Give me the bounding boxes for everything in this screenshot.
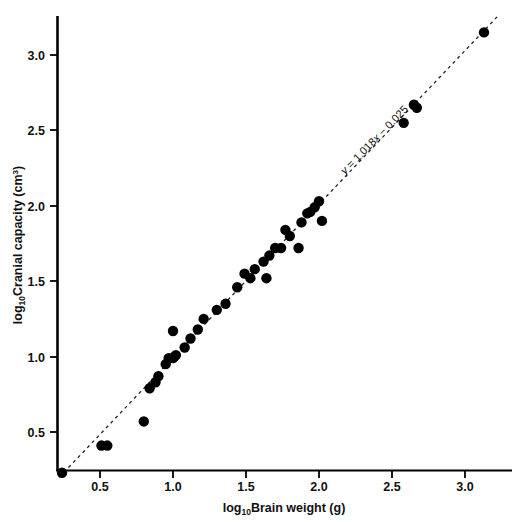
data-point — [296, 217, 306, 227]
x-axis-title-base: log — [223, 501, 242, 515]
data-point — [139, 416, 149, 426]
x-tick-label-1: 1.0 — [164, 480, 181, 494]
y-axis-title-sub: 10 — [17, 296, 27, 306]
axes-group — [56, 16, 512, 471]
svg-text:log10Brain weight (g): log10Brain weight (g) — [223, 501, 346, 517]
data-point — [314, 196, 324, 206]
data-point — [245, 273, 255, 283]
data-point — [412, 103, 422, 113]
data-point — [185, 333, 195, 343]
x-tick-label-2: 1.5 — [237, 480, 254, 494]
x-axis-title: log10Brain weight (g) — [223, 501, 346, 517]
data-point — [317, 216, 327, 226]
x-tick-label-3: 2.0 — [310, 480, 327, 494]
equation-equals: = 1.018 — [342, 135, 379, 172]
y-axis-title-tail: ) — [11, 166, 25, 170]
y-tick-label-5: 3.0 — [28, 49, 45, 63]
regression-equation: y = 1.018x − 0.025 — [337, 103, 410, 177]
data-point — [280, 225, 290, 235]
data-point — [250, 264, 260, 274]
y-tick-labels: 0.5 1.0 1.5 2.0 2.5 3.0 — [28, 49, 45, 440]
y-axis-title: log10Cranial capacity (cm3) — [11, 166, 27, 324]
data-point — [193, 324, 203, 334]
y-axis-title-base: log — [11, 305, 25, 324]
x-tick-label-4: 2.5 — [383, 480, 400, 494]
x-axis-title-sub: 10 — [241, 507, 251, 517]
y-tick-label-4: 2.5 — [28, 124, 45, 138]
y-tick-label-1: 1.0 — [28, 351, 45, 365]
data-point — [179, 342, 189, 352]
x-tick-label-0: 0.5 — [91, 480, 108, 494]
data-point — [102, 440, 112, 450]
y-tick-label-2: 1.5 — [28, 275, 45, 289]
data-point — [220, 299, 230, 309]
data-point — [479, 27, 489, 37]
data-point — [212, 305, 222, 315]
data-point — [153, 371, 163, 381]
data-point — [171, 350, 181, 360]
y-tick-label-3: 2.0 — [28, 200, 45, 214]
svg-text:log10Cranial capacity (cm3): log10Cranial capacity (cm3) — [11, 166, 27, 324]
data-points-group — [57, 27, 489, 478]
data-point — [57, 468, 67, 478]
y-axis-title-rest: Cranial capacity (cm — [11, 174, 25, 296]
y-tick-label-0: 0.5 — [28, 426, 45, 440]
x-axis-title-rest: Brain weight (g) — [251, 501, 345, 515]
data-point — [276, 243, 286, 253]
data-point — [198, 314, 208, 324]
scatter-plot: 0.5 1.0 1.5 2.0 2.5 3.0 0.5 1.0 1.5 2.0 … — [0, 0, 530, 522]
svg-text:y = 1.018x − 0.025: y = 1.018x − 0.025 — [337, 103, 410, 177]
x-tick-label-5: 3.0 — [456, 480, 473, 494]
data-point — [261, 273, 271, 283]
data-point — [232, 282, 242, 292]
x-tick-labels: 0.5 1.0 1.5 2.0 2.5 3.0 — [91, 480, 473, 494]
data-point — [293, 243, 303, 253]
figure-container: 0.5 1.0 1.5 2.0 2.5 3.0 0.5 1.0 1.5 2.0 … — [0, 0, 530, 522]
data-point — [168, 326, 178, 336]
